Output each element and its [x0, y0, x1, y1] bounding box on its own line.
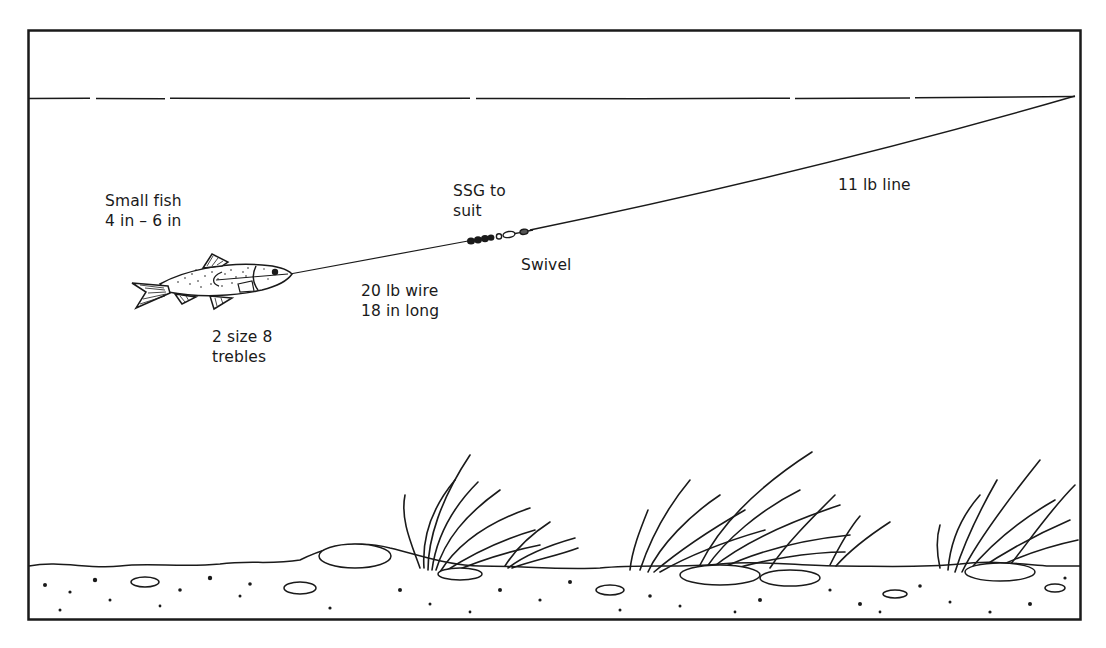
label-bait-line2: 4 in – 6 in [105, 211, 182, 231]
split-shot [467, 234, 494, 244]
label-bait-line1: Small fish [105, 191, 182, 211]
rig-illustration [0, 0, 1106, 648]
label-trace-line1: 20 lb wire [361, 281, 439, 301]
main-line [530, 96, 1075, 230]
label-weight-line2: suit [453, 201, 506, 221]
frame [29, 31, 1081, 620]
label-hooks-line2: trebles [212, 347, 272, 367]
label-main-line: 11 lb line [838, 175, 911, 195]
bait-fish [132, 254, 292, 309]
label-hooks-line1: 2 size 8 [212, 327, 272, 347]
label-wire-trace: 20 lb wire 18 in long [361, 281, 439, 321]
label-weight-line1: SSG to [453, 181, 506, 201]
label-hooks: 2 size 8 trebles [212, 327, 272, 367]
weed-clumps [404, 452, 1078, 574]
label-split-shot: SSG to suit [453, 181, 506, 221]
label-swivel-line1: Swivel [521, 255, 571, 275]
label-swivel: Swivel [521, 255, 571, 275]
label-trace-line2: 18 in long [361, 301, 439, 321]
wire-trace [290, 241, 468, 274]
river-bed [29, 544, 1080, 614]
water-surface [29, 97, 1075, 99]
swivel [496, 229, 533, 239]
label-bait-fish: Small fish 4 in – 6 in [105, 191, 182, 231]
label-mainline-line1: 11 lb line [838, 175, 911, 195]
